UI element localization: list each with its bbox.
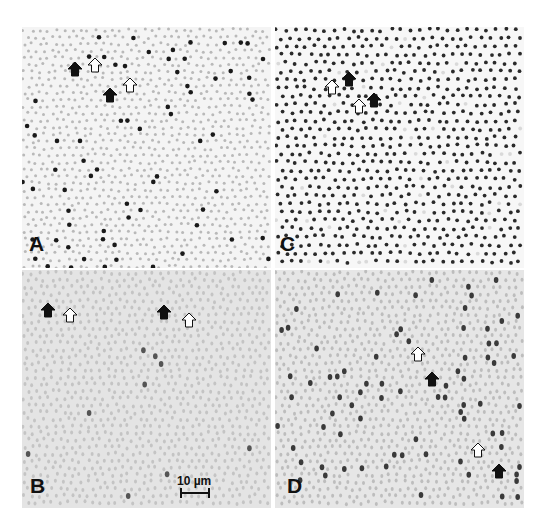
open-arrow-icon: [352, 99, 366, 113]
open-arrow-icon: [63, 308, 77, 322]
filled-arrow-icon: [103, 88, 117, 102]
open-arrow-icon: [471, 443, 485, 457]
filled-arrow-icon: [342, 72, 356, 86]
filled-arrow-icon: [492, 464, 506, 478]
filled-arrow-icon: [157, 305, 171, 319]
open-arrow-icon: [325, 80, 339, 94]
filled-arrow-icon: [367, 93, 381, 107]
open-arrow-icon: [88, 58, 102, 72]
filled-arrow-icon: [41, 303, 55, 317]
open-arrow-icon: [182, 313, 196, 327]
open-arrow-icon: [123, 78, 137, 92]
open-arrow-icon: [411, 347, 425, 361]
micrograph-figure: A C B 10 µm D: [0, 0, 547, 527]
arrow-overlay: [0, 0, 547, 527]
filled-arrow-icon: [425, 372, 439, 386]
filled-arrow-icon: [68, 62, 82, 76]
